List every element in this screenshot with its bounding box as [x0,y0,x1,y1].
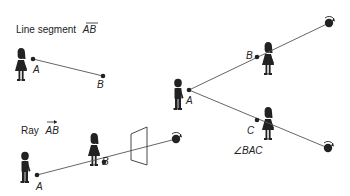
girl-figure-icon [262,107,274,140]
point-c-label: C [247,125,255,136]
point-a-label: A [32,64,40,75]
point-b-label: B [246,50,253,61]
boy-figure-icon [21,152,31,183]
vertex-a-label: A [185,95,193,106]
point-a-label: A [35,181,43,192]
geometry-diagram: Line segment AB A B Ray AB A B [0,0,350,196]
vertex-a-dot [187,88,192,93]
ray-caption: Ray AB [21,125,59,136]
rolling-ball-icon [324,141,334,152]
line-segment-figure: Line segment AB A B [15,23,105,90]
point-a-dot [31,57,36,62]
girl-figure-icon [262,42,274,75]
boy-figure-icon [174,79,184,110]
point-b-dot [101,74,106,79]
rolling-ball-icon [325,16,335,27]
ray-figure: Ray AB A B [21,120,183,192]
point-a-dot [35,173,40,178]
girl-figure-icon [15,48,27,81]
segment-ab-line [33,59,103,76]
rolling-ball-icon [172,132,182,143]
point-b-dot [255,55,260,60]
point-c-dot [255,118,260,123]
segment-name-ab: AB [82,24,97,35]
ray-name-ab: AB [45,125,60,136]
point-b-label: B [97,79,104,90]
point-b-label: B [102,156,109,167]
line-segment-caption: Line segment AB [16,24,96,35]
angle-figure: A B C ∠BAC [174,16,336,156]
angle-caption: ∠BAC [233,145,263,156]
screen-panel-icon [131,127,147,165]
ray-arrowhead-icon [54,120,57,124]
